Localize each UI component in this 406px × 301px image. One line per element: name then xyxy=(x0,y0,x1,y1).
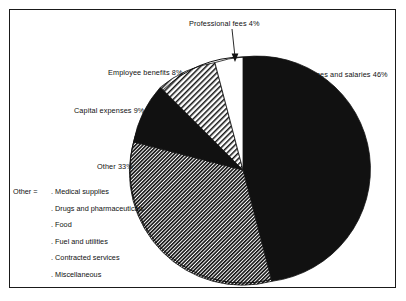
list-item: . Contracted services xyxy=(51,253,144,270)
list-item: . Fuel and utilities xyxy=(51,237,144,254)
pie-label-other: Other 33% xyxy=(97,162,133,171)
pie-label-professional-fees: Professional fees 4% xyxy=(189,19,260,28)
pie-label-capital-expenses: Capital expenses 9% xyxy=(74,106,144,115)
other-legend-items: . Medical supplies . Drugs and pharmaceu… xyxy=(51,187,144,287)
list-item: . Miscellaneous xyxy=(51,270,144,287)
pie-label-wages-and-salaries: Wages and salaries 46% xyxy=(305,70,388,79)
professional-fees-leader-line xyxy=(232,29,235,57)
list-item: . Drugs and pharmaceuticals xyxy=(51,204,144,221)
list-item: . Food xyxy=(51,220,144,237)
list-item: . Medical supplies xyxy=(51,187,144,204)
pie-label-employee-benefits: Employee benefits 8% xyxy=(108,68,183,77)
chart-page: Professional fees 4% Wages and salaries … xyxy=(0,0,406,301)
other-legend-heading: Other = xyxy=(13,187,38,196)
pie-chart: Professional fees 4% Wages and salaries … xyxy=(0,0,406,301)
